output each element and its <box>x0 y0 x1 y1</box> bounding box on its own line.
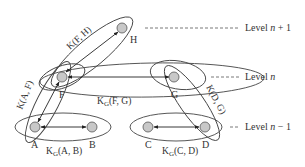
node-label-h: H <box>130 34 137 45</box>
group-label-kg-cd: KG(C, D) <box>162 146 198 158</box>
node-label-g: G <box>171 89 178 100</box>
node-label-b: B <box>89 139 96 150</box>
node-a <box>30 122 40 132</box>
level-label-n: Level n <box>245 71 275 82</box>
node-g <box>169 72 179 82</box>
level-label-n-minus-1: Level n − 1 <box>245 121 291 132</box>
node-d <box>200 122 210 132</box>
group-label-kg-fg: KG(F, G) <box>97 96 131 108</box>
group-label-k-fh: K(F, H) <box>65 24 94 52</box>
node-c <box>143 122 153 132</box>
node-label-d: D <box>202 139 209 150</box>
node-h <box>117 23 127 33</box>
node-label-c: C <box>145 139 152 150</box>
level-label-n-plus-1: Level n + 1 <box>245 22 291 33</box>
node-label-f: F <box>59 89 65 100</box>
node-b <box>87 122 97 132</box>
node-f <box>57 72 67 82</box>
group-label-k-af: K(A, F) <box>15 79 36 111</box>
group-label-kg-ab: KG(A, B) <box>46 146 82 158</box>
hierarchy-diagram: H F G A B C D K(F, H) K(A, F) K(D, G) KG… <box>0 0 305 167</box>
node-label-a: A <box>31 139 39 150</box>
group-label-k-dg: K(D, G) <box>203 83 228 116</box>
